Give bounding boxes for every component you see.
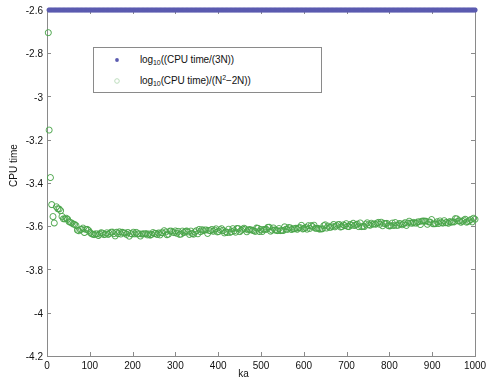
y-tick-label: -3.6 — [3, 221, 43, 232]
figure-scatter-plot: CPU time ka log10((CPU time/(3N)) log10(… — [0, 0, 487, 383]
x-tick-label: 300 — [167, 360, 184, 371]
y-tick-label: -3.4 — [3, 178, 43, 189]
x-tick-label: 400 — [210, 360, 227, 371]
legend-box: log10((CPU time/(3N)) log10(CPU time)/(N… — [93, 47, 322, 93]
x-tick-label: 800 — [381, 360, 398, 371]
legend-marker-open-circle — [94, 76, 140, 86]
legend-marker-filled-dot — [94, 55, 140, 65]
x-axis-title: ka — [0, 368, 487, 379]
x-tick-label: 900 — [424, 360, 441, 371]
x-tick-label: 100 — [81, 360, 98, 371]
x-tick-label: 600 — [295, 360, 312, 371]
y-tick-label: -2.6 — [3, 5, 43, 16]
legend-label-series-2: log10(CPU time)/(N2−2N)) — [140, 75, 251, 86]
y-tick-label: -3 — [3, 91, 43, 102]
x-tick-label: 500 — [253, 360, 270, 371]
x-tick-label: 1000 — [464, 360, 486, 371]
y-tick-label: -3.2 — [3, 134, 43, 145]
legend-entry-series-1: log10((CPU time/(3N)) — [94, 48, 321, 71]
y-tick-label: -2.8 — [3, 48, 43, 59]
y-tick-label: -3.8 — [3, 264, 43, 275]
x-tick-label: 0 — [44, 360, 50, 371]
legend-entry-series-2: log10(CPU time)/(N2−2N)) — [94, 69, 321, 92]
y-tick-label: -4.2 — [3, 351, 43, 362]
legend-label-series-1: log10((CPU time/(3N)) — [140, 54, 234, 65]
x-tick-label: 700 — [338, 360, 355, 371]
y-tick-label: -4 — [3, 307, 43, 318]
x-tick-label: 200 — [124, 360, 141, 371]
